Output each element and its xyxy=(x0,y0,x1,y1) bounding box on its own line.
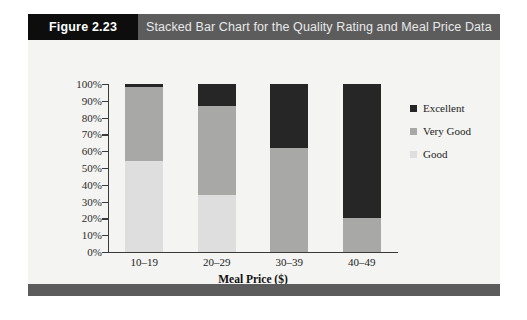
bar-segment-excellent[interactable] xyxy=(198,84,236,106)
bar-segment-very-good[interactable] xyxy=(343,218,381,252)
legend-swatch-excellent xyxy=(410,105,417,112)
x-axis-category-label: 20–29 xyxy=(180,256,254,268)
y-axis-tick-label-text: 80% xyxy=(64,113,102,123)
y-axis-tick-label: 90% xyxy=(56,96,102,106)
y-axis-tick-label-text: 90% xyxy=(64,96,102,106)
bar-segment-good[interactable] xyxy=(125,161,163,252)
x-axis-category-label: 40–49 xyxy=(325,256,399,268)
y-axis-tick-label-text: 0% xyxy=(64,247,102,257)
y-axis-tick-label-text: 50% xyxy=(64,163,102,173)
legend-label: Excellent xyxy=(423,102,465,114)
y-axis-tick-label-text: 30% xyxy=(64,197,102,207)
y-axis-tick-label-text: 60% xyxy=(64,146,102,156)
figure-number-tag: Figure 2.23 xyxy=(28,14,138,40)
x-axis-line xyxy=(108,252,398,253)
y-axis-tick-label-text: 100% xyxy=(64,79,102,89)
y-axis-tick-label: 20% xyxy=(56,213,102,223)
figure-header-bar: Figure 2.23 Stacked Bar Chart for the Qu… xyxy=(28,14,500,40)
bar-stack[interactable] xyxy=(125,84,163,252)
bar-segment-very-good[interactable] xyxy=(125,87,163,161)
bar-segment-excellent[interactable] xyxy=(343,84,381,218)
legend-item[interactable]: Very Good xyxy=(410,125,496,137)
y-axis-tick-label: 40% xyxy=(56,180,102,190)
y-axis-tick-label-text: 40% xyxy=(64,180,102,190)
chart-legend: ExcellentVery GoodGood xyxy=(410,102,496,171)
y-axis-tick-label: 80% xyxy=(56,113,102,123)
x-axis-category-label: 10–19 xyxy=(107,256,181,268)
y-axis-tick-label: 0% xyxy=(56,247,102,257)
legend-label: Good xyxy=(423,148,447,160)
bar-segment-very-good[interactable] xyxy=(270,148,308,252)
y-axis-tick-label: 100% xyxy=(56,79,102,89)
y-axis-tick-label: 50% xyxy=(56,163,102,173)
legend-item[interactable]: Good xyxy=(410,148,496,160)
y-axis-tick-label: 60% xyxy=(56,146,102,156)
y-axis-tick-labels: 0%10%20%30%40%50%60%70%80%90%100% xyxy=(56,40,102,284)
y-axis-tick-label-text: 20% xyxy=(64,213,102,223)
x-axis-category-label: 30–39 xyxy=(252,256,326,268)
bar-segment-excellent[interactable] xyxy=(270,84,308,148)
bar-stack[interactable] xyxy=(270,84,308,252)
figure-footer-bar xyxy=(28,284,500,296)
legend-item[interactable]: Excellent xyxy=(410,102,496,114)
legend-label: Very Good xyxy=(423,125,471,137)
figure-card: Figure 2.23 Stacked Bar Chart for the Qu… xyxy=(28,14,500,296)
bar-segment-good[interactable] xyxy=(198,195,236,252)
y-axis-tick-label: 10% xyxy=(56,230,102,240)
bar-series-container xyxy=(108,84,398,252)
bar-segment-excellent[interactable] xyxy=(125,84,163,87)
bar-segment-very-good[interactable] xyxy=(198,106,236,195)
figure-title: Stacked Bar Chart for the Quality Rating… xyxy=(146,14,494,40)
legend-swatch-very-good xyxy=(410,128,417,135)
y-axis-tick-mark xyxy=(102,252,108,253)
bar-stack[interactable] xyxy=(343,84,381,252)
y-axis-tick-label: 70% xyxy=(56,129,102,139)
y-axis-tick-label-text: 10% xyxy=(64,230,102,240)
y-axis-tick-label: 30% xyxy=(56,197,102,207)
legend-swatch-good xyxy=(410,151,417,158)
bar-stack[interactable] xyxy=(198,84,236,252)
y-axis-tick-label-text: 70% xyxy=(64,129,102,139)
chart-plot-area: 0%10%20%30%40%50%60%70%80%90%100% 10–192… xyxy=(28,40,500,284)
